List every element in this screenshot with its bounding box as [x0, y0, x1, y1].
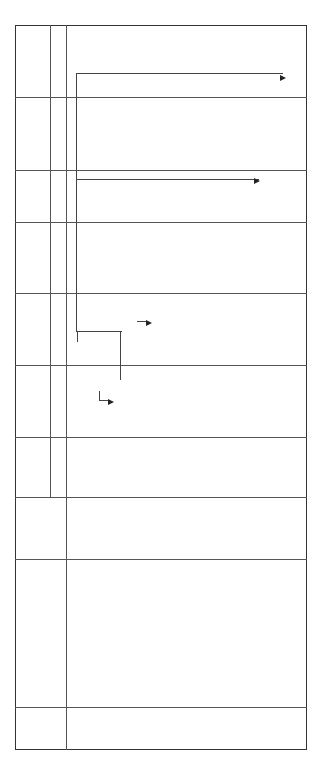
major-gridline: [15, 222, 307, 223]
gantt-chart: [0, 0, 325, 768]
major-gridline: [15, 293, 307, 294]
major-gridline: [15, 97, 307, 98]
chart-frame: [15, 25, 307, 750]
dependency-line: [76, 74, 77, 332]
dependency-line: [77, 331, 122, 332]
dependency-line: [120, 332, 121, 380]
duration-column-divider: [15, 497, 307, 498]
header-divider-major: [50, 25, 51, 498]
task-column-divider: [15, 559, 307, 560]
id-column-divider: [15, 707, 307, 708]
dependency-line: [77, 332, 78, 342]
header-divider-minor: [66, 25, 67, 750]
major-gridline: [15, 365, 307, 366]
major-gridline: [15, 170, 307, 171]
dependency-line: [77, 179, 259, 180]
dependency-line: [76, 73, 283, 74]
major-gridline: [15, 437, 307, 438]
